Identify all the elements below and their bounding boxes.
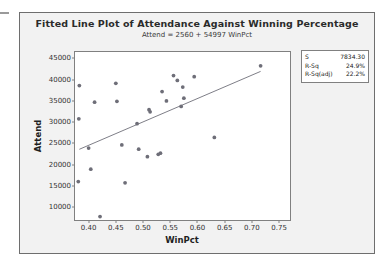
x-axis-tick-mark [88,220,89,223]
x-axis-tick-label: 0.45 [108,224,124,232]
y-axis-tick-label: 30000 [49,118,71,126]
y-axis-tick-label: 40000 [49,76,71,84]
y-axis-tick-label: 45000 [49,54,71,62]
scatter-point [160,90,164,94]
scatter-point [77,84,81,88]
scatter-point [146,155,150,159]
stats-value-s: 7834.30 [340,53,365,62]
scatter-point [98,215,102,219]
scatter-point [77,117,81,121]
x-axis-tick-label: 0.40 [81,224,97,232]
x-axis-tick-mark [170,220,171,223]
scatter-point [148,110,152,114]
edge-tick-mark [0,12,9,14]
scatter-point [181,85,185,89]
regression-line-group [79,71,260,149]
stats-row: R-Sq(adj) 22.2% [305,70,365,79]
plot-area: 1000015000200002500030000350004000045000… [74,51,291,221]
x-axis-tick-mark [197,220,198,223]
chart-title: Fitted Line Plot of Attendance Against W… [20,18,374,30]
scatter-point [87,146,91,150]
x-axis-tick-mark [115,220,116,223]
scatter-point [115,99,119,103]
chart-subtitle-equation: Attend = 2560 + 54997 WinPct [20,30,374,41]
y-axis-tick-label: 35000 [49,97,71,105]
x-axis-tick-mark [279,220,280,223]
stats-value-rsq-adj: 22.2% [346,70,365,79]
y-axis-tick-label: 15000 [49,182,71,190]
scatter-point [165,99,169,103]
y-axis-tick-label: 10000 [49,203,71,211]
stats-row: S 7834.30 [305,53,365,62]
y-axis-tick-mark [72,164,75,165]
stats-row: R-Sq 24.9% [305,62,365,71]
x-axis-tick-label: 0.70 [244,224,260,232]
stats-value-rsq: 24.9% [346,62,365,71]
y-axis-tick-mark [72,207,75,208]
scatter-point [114,81,118,85]
scatter-point [212,136,216,140]
x-axis-tick-label: 0.60 [190,224,206,232]
scatter-point [259,64,263,68]
y-axis-tick-mark [72,100,75,101]
scatter-point [192,75,196,79]
scatter-point [175,79,179,83]
scatter-point [120,143,124,147]
scatter-point [135,122,139,126]
scatter-point [76,180,80,184]
y-axis-label: Attend [33,120,43,153]
scatter-point [93,100,97,104]
scatter-point [182,96,186,100]
x-axis-tick-label: 0.50 [135,224,151,232]
stats-label-rsq: R-Sq [305,62,319,71]
stats-label-s: S [305,53,309,62]
screenshot-root: Fitted Line Plot of Attendance Against W… [0,0,388,266]
x-axis-label: WinPct [165,235,199,245]
x-axis-tick-label: 0.75 [271,224,287,232]
plot-canvas [75,52,290,220]
x-axis-tick-mark [143,220,144,223]
y-axis-tick-label: 20000 [49,161,71,169]
statistics-box: S 7834.30 R-Sq 24.9% R-Sq(adj) 22.2% [301,50,369,83]
y-axis-tick-mark [72,185,75,186]
x-axis-tick-mark [224,220,225,223]
y-axis-tick-mark [72,143,75,144]
scatter-points-group [76,64,262,219]
x-axis-tick-label: 0.55 [162,224,178,232]
x-axis-tick-mark [251,220,252,223]
scatter-point [172,74,176,78]
scatter-point [159,151,163,155]
chart-figure: Fitted Line Plot of Attendance Against W… [19,12,375,254]
y-axis-tick-mark [72,122,75,123]
chart-title-block: Fitted Line Plot of Attendance Against W… [20,18,374,41]
scatter-point [123,181,127,185]
regression-line [79,71,260,149]
y-axis-tick-mark [72,79,75,80]
scatter-point [89,167,93,171]
y-axis-tick-label: 25000 [49,139,71,147]
stats-label-rsq-adj: R-Sq(adj) [305,70,333,79]
scatter-point [179,105,183,109]
y-axis-tick-mark [72,58,75,59]
scatter-point [137,147,141,151]
x-axis-tick-label: 0.65 [217,224,233,232]
